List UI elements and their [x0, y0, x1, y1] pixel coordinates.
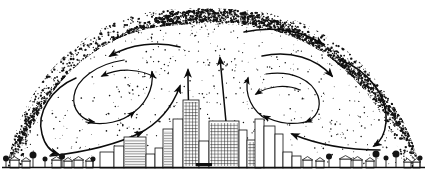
urban-dust-dome-figure [0, 0, 427, 173]
